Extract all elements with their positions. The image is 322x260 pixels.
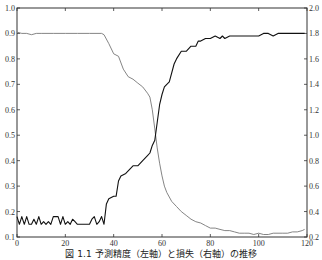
left-tick-label: 0.2	[5, 208, 15, 217]
x-tick-label: 40	[110, 239, 118, 246]
right-tick-label: 0.8	[309, 157, 319, 166]
right-tick-label: 0.6	[309, 182, 319, 191]
left-tick-label: 0.9	[5, 29, 15, 38]
left-tick-label: 1.0	[5, 4, 15, 13]
x-tick-label: 80	[206, 239, 214, 246]
dual-axis-line-chart: 0.10.20.30.40.50.60.70.80.91.0 0.20.40.6…	[0, 0, 322, 246]
right-tick-label: 1.4	[309, 80, 319, 89]
loss-line	[17, 32, 305, 234]
x-tick-label: 60	[158, 239, 166, 246]
left-y-axis: 0.10.20.30.40.50.60.70.80.91.0	[5, 4, 20, 242]
left-tick-label: 0.3	[5, 182, 15, 191]
plot-border	[17, 8, 307, 237]
plot-frame	[17, 8, 307, 237]
right-tick-label: 1.6	[309, 55, 319, 64]
accuracy-line	[17, 33, 305, 224]
x-tick-label: 120	[301, 239, 313, 246]
x-tick-label: 20	[61, 239, 69, 246]
left-tick-label: 0.5	[5, 131, 15, 140]
left-tick-label: 0.4	[5, 157, 15, 166]
right-tick-label: 0.4	[309, 208, 319, 217]
left-tick-label: 0.1	[5, 233, 15, 242]
series-lines	[17, 32, 305, 234]
right-tick-label: 1.2	[309, 106, 319, 115]
x-tick-label: 100	[253, 239, 265, 246]
x-axis: 020406080100120	[15, 8, 313, 246]
x-tick-label: 0	[15, 239, 19, 246]
right-tick-label: 1.8	[309, 29, 319, 38]
right-tick-label: 1.0	[309, 131, 319, 140]
left-tick-label: 0.8	[5, 55, 15, 64]
figure-caption: 図 1.1 予測精度（左軸）と損失（右軸）の推移	[0, 247, 322, 260]
right-tick-label: 2.0	[309, 4, 319, 13]
left-tick-label: 0.6	[5, 106, 15, 115]
left-tick-label: 0.7	[5, 80, 15, 89]
right-y-axis: 0.20.40.60.81.01.21.41.61.82.0	[304, 4, 319, 242]
